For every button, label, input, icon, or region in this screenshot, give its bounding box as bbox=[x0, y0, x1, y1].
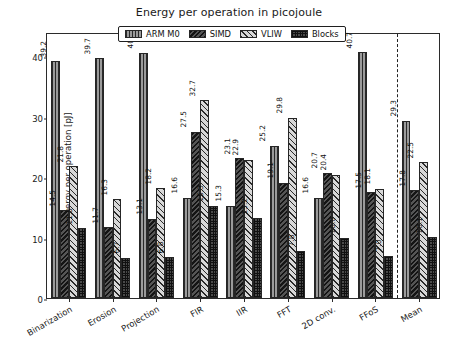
bar-value-label: 32.7 bbox=[189, 80, 196, 96]
legend-label-simd: SIMD bbox=[210, 29, 231, 39]
bar-blocks[interactable] bbox=[78, 228, 87, 298]
bar-group: 16.627.532.715.3 bbox=[183, 34, 218, 298]
bar-value-label: 39.7 bbox=[84, 38, 91, 54]
legend-label-arm-m0: ARM M0 bbox=[146, 29, 180, 39]
bar-value-label: 18.1 bbox=[364, 168, 371, 184]
x-tick-label-fft: FFT bbox=[241, 304, 293, 340]
bar-value-label: 6.8 bbox=[156, 241, 163, 253]
x-tick-mark bbox=[156, 298, 157, 302]
bar-group: 39.214.521.811.5 bbox=[51, 34, 86, 298]
x-tick-mark bbox=[288, 298, 289, 302]
bar-simd[interactable] bbox=[148, 219, 157, 298]
bar-value-label: 7.8 bbox=[288, 235, 295, 247]
bar-value-label: 25.2 bbox=[259, 125, 266, 141]
legend-item-vliw[interactable]: VLIW bbox=[240, 29, 282, 39]
group-separator bbox=[397, 34, 398, 298]
bar-simd[interactable] bbox=[235, 158, 244, 298]
x-tick-label-ffos: FFoS bbox=[329, 304, 381, 340]
bar-value-label: 11.7 bbox=[93, 207, 100, 223]
legend-swatch-arm-m0 bbox=[125, 30, 142, 38]
bar-value-label: 17.8 bbox=[399, 170, 406, 186]
legend-label-vliw: VLIW bbox=[261, 29, 282, 39]
bar-value-label: 16.3 bbox=[101, 179, 108, 195]
bar-value-label: 10.1 bbox=[417, 216, 424, 232]
bar-simd[interactable] bbox=[410, 190, 419, 298]
x-tick-label-erosion: Erosion bbox=[66, 304, 118, 340]
bar-blocks[interactable] bbox=[253, 218, 262, 298]
bar-arm-m0[interactable] bbox=[314, 198, 323, 298]
x-tick-label-projection: Projection bbox=[110, 304, 162, 340]
y-tick-label-0: 0 bbox=[38, 295, 43, 305]
bar-value-label: 16.6 bbox=[171, 177, 178, 193]
bar-value-label: 19.1 bbox=[268, 162, 275, 178]
bar-blocks[interactable] bbox=[209, 206, 218, 298]
bar-blocks[interactable] bbox=[165, 257, 174, 298]
x-tick-mark bbox=[419, 298, 420, 302]
y-tick-label-20: 20 bbox=[32, 174, 43, 184]
y-tick-mark-40 bbox=[44, 58, 47, 59]
bar-value-label: 17.5 bbox=[355, 172, 362, 188]
x-tick-label-binarization: Binarization bbox=[22, 304, 74, 340]
bar-value-label: 14.5 bbox=[49, 190, 56, 206]
bar-group: 25.219.129.87.8 bbox=[270, 34, 305, 298]
bar-blocks[interactable] bbox=[384, 256, 393, 298]
bar-value-label: 15.3 bbox=[215, 185, 222, 201]
bar-blocks[interactable] bbox=[428, 237, 437, 298]
bar-value-label: 18.2 bbox=[145, 168, 152, 184]
figure: Energy per operation in picojoule ARM M0… bbox=[0, 0, 458, 357]
bar-value-label: 29.8 bbox=[277, 97, 284, 113]
bar-vliw[interactable] bbox=[244, 160, 253, 298]
x-tick-label-2d-conv-: 2D conv. bbox=[285, 304, 337, 340]
y-tick-mark-10 bbox=[44, 239, 47, 240]
x-tick-label-mean: Mean bbox=[372, 304, 424, 340]
bar-simd[interactable] bbox=[323, 173, 332, 298]
bar-value-label: 6.7 bbox=[112, 242, 119, 254]
bar-group: 15.323.122.913.2 bbox=[226, 34, 261, 298]
x-tick-mark bbox=[69, 298, 70, 302]
bar-value-label: 10.0 bbox=[329, 217, 336, 233]
y-tick-mark-30 bbox=[44, 118, 47, 119]
bar-group: 40.717.518.17.0 bbox=[358, 34, 393, 298]
legend-swatch-blocks bbox=[291, 30, 308, 38]
x-tick-mark bbox=[244, 298, 245, 302]
bar-arm-m0[interactable] bbox=[226, 206, 235, 298]
bar-value-label: 27.5 bbox=[180, 111, 187, 127]
x-tick-mark bbox=[332, 298, 333, 302]
chart-legend: ARM M0 SIMD VLIW Blocks bbox=[118, 26, 346, 42]
bar-vliw[interactable] bbox=[332, 175, 341, 298]
bar-value-label: 15.3 bbox=[198, 185, 205, 201]
x-tick-mark bbox=[200, 298, 201, 302]
bar-blocks[interactable] bbox=[340, 238, 349, 298]
y-tick-label-10: 10 bbox=[32, 235, 43, 245]
bar-vliw[interactable] bbox=[69, 166, 78, 298]
legend-swatch-vliw bbox=[240, 30, 257, 38]
bar-value-label: 22.5 bbox=[408, 142, 415, 158]
bar-blocks[interactable] bbox=[297, 251, 306, 298]
bar-group: 29.317.822.510.1 bbox=[402, 34, 437, 298]
bar-arm-m0[interactable] bbox=[183, 198, 192, 298]
y-tick-mark-20 bbox=[44, 179, 47, 180]
legend-item-simd[interactable]: SIMD bbox=[189, 29, 231, 39]
bar-vliw[interactable] bbox=[288, 118, 297, 298]
legend-item-blocks[interactable]: Blocks bbox=[291, 29, 339, 39]
bar-value-label: 11.5 bbox=[66, 208, 73, 224]
bar-value-label: 16.6 bbox=[303, 177, 310, 193]
legend-label-blocks: Blocks bbox=[312, 29, 339, 39]
x-tick-label-iir: IIR bbox=[197, 304, 249, 340]
bar-value-label: 7.0 bbox=[375, 240, 382, 252]
x-tick-mark bbox=[113, 298, 114, 302]
x-tick-mark bbox=[375, 298, 376, 302]
legend-item-arm-m0[interactable]: ARM M0 bbox=[125, 29, 180, 39]
bar-value-label: 22.9 bbox=[233, 139, 240, 155]
bar-group: 40.613.118.26.8 bbox=[139, 34, 174, 298]
bar-simd[interactable] bbox=[104, 227, 113, 298]
bar-value-label: 39.2 bbox=[40, 41, 47, 57]
bar-simd[interactable] bbox=[191, 132, 200, 298]
bar-group: 16.620.720.410.0 bbox=[314, 34, 349, 298]
x-tick-label-fir: FIR bbox=[153, 304, 205, 340]
bar-blocks[interactable] bbox=[121, 258, 130, 299]
legend-swatch-simd bbox=[189, 30, 206, 38]
bar-value-label: 20.4 bbox=[320, 154, 327, 170]
y-tick-label-30: 30 bbox=[32, 114, 43, 124]
bar-arm-m0[interactable] bbox=[51, 61, 60, 298]
